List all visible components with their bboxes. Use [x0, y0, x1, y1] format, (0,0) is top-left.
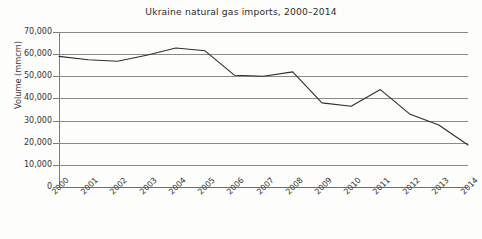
x-tick-label-2013: 2013 — [430, 176, 451, 197]
x-tick-label-2011: 2011 — [371, 176, 392, 197]
y-tick-mark-70000 — [53, 32, 59, 33]
x-tick-label-2010: 2010 — [342, 176, 363, 197]
x-tick-label-2002: 2002 — [108, 176, 129, 197]
y-tick-mark-20000 — [53, 143, 59, 144]
x-axis-tick-labels: 2000200120022003200420052006200720082009… — [0, 0, 482, 239]
x-tick-label-2001: 2001 — [79, 176, 100, 197]
x-tick-label-2004: 2004 — [167, 176, 188, 197]
x-tick-label-2005: 2005 — [196, 176, 217, 197]
y-tick-mark-60000 — [53, 54, 59, 55]
x-tick-label-2000: 2000 — [50, 176, 71, 197]
x-tick-label-2014: 2014 — [459, 176, 480, 197]
y-tick-mark-50000 — [53, 76, 59, 77]
y-tick-mark-10000 — [53, 165, 59, 166]
chart-figure: Ukraine natural gas imports, 2000–2014 V… — [0, 0, 482, 239]
x-tick-label-2009: 2009 — [313, 176, 334, 197]
x-tick-label-2012: 2012 — [401, 176, 422, 197]
x-tick-label-2007: 2007 — [255, 176, 276, 197]
x-tick-label-2003: 2003 — [138, 176, 159, 197]
x-tick-label-2008: 2008 — [284, 176, 305, 197]
y-tick-mark-30000 — [53, 121, 59, 122]
y-tick-mark-40000 — [53, 98, 59, 99]
x-tick-label-2006: 2006 — [225, 176, 246, 197]
y-tick-mark-0 — [53, 187, 59, 188]
